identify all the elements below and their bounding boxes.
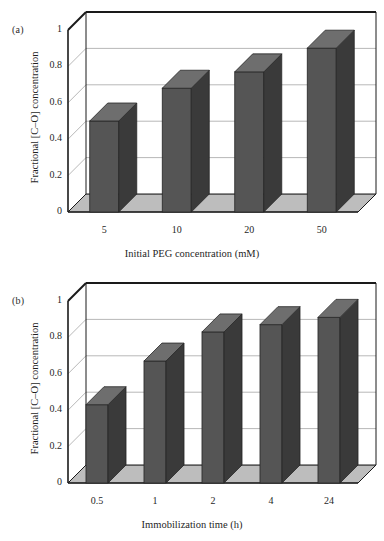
y-tick-label: 0.8 <box>32 59 62 70</box>
chart-panel-a: (a) Fractional [C–O] concentration 00.20… <box>0 0 384 270</box>
bar-20 <box>235 54 282 212</box>
bar-front-face <box>307 48 336 212</box>
plot-area-b: 00.20.40.60.810.512424 <box>0 271 384 541</box>
bar-24 <box>318 299 358 483</box>
y-tick-label: 1 <box>32 23 62 34</box>
bar-10 <box>162 70 209 212</box>
x-tick-label: 50 <box>299 224 345 235</box>
y-tick-label: 1 <box>32 294 62 305</box>
x-axis-title-b: Immobilization time (h) <box>0 519 384 530</box>
x-tick-label: 0.5 <box>74 495 120 506</box>
y-tick-label: 0.6 <box>32 367 62 378</box>
x-tick-label: 1 <box>132 495 178 506</box>
x-tick-label: 10 <box>154 224 200 235</box>
y-tick-label: 0.8 <box>32 330 62 341</box>
bar-front-face <box>235 72 264 212</box>
bar-front-face <box>318 317 340 483</box>
y-tick-label: 0 <box>32 205 62 216</box>
bar-5 <box>90 103 137 212</box>
left-wall <box>68 283 86 483</box>
bar-front-face <box>260 325 282 483</box>
x-tick-label: 5 <box>81 224 127 235</box>
bar-side-face <box>166 343 184 483</box>
x-axis-title-a: Initial PEG concentration (mM) <box>0 248 384 259</box>
chart-panel-b: (b) Fractional [C–O] concentration 00.20… <box>0 271 384 541</box>
bar-0.5 <box>86 387 126 483</box>
bar-front-face <box>144 361 166 483</box>
left-wall <box>68 12 86 212</box>
y-tick-label: 0 <box>32 476 62 487</box>
x-tick-label: 4 <box>248 495 294 506</box>
y-tick-label: 0.4 <box>32 403 62 414</box>
bar-side-face <box>340 299 358 483</box>
x-tick-label: 24 <box>306 495 352 506</box>
bar-4 <box>260 307 300 483</box>
bar-front-face <box>202 332 224 483</box>
bar-side-face <box>224 314 242 483</box>
bar-front-face <box>86 405 108 483</box>
bar-side-face <box>191 70 209 212</box>
y-tick-label: 0.2 <box>32 440 62 451</box>
bar-2 <box>202 314 242 483</box>
bar-1 <box>144 343 184 483</box>
bar-side-face <box>264 54 282 212</box>
x-tick-label: 20 <box>226 224 272 235</box>
bar-side-face <box>282 307 300 483</box>
bar-side-face <box>336 30 354 212</box>
bar-side-face <box>119 103 137 212</box>
bar-front-face <box>162 88 191 212</box>
y-tick-label: 0.2 <box>32 169 62 180</box>
x-tick-label: 2 <box>190 495 236 506</box>
bar-front-face <box>90 121 119 212</box>
plot-area-a: 00.20.40.60.815102050 <box>0 0 384 270</box>
y-tick-label: 0.4 <box>32 132 62 143</box>
y-tick-label: 0.6 <box>32 96 62 107</box>
bar-50 <box>307 30 354 212</box>
